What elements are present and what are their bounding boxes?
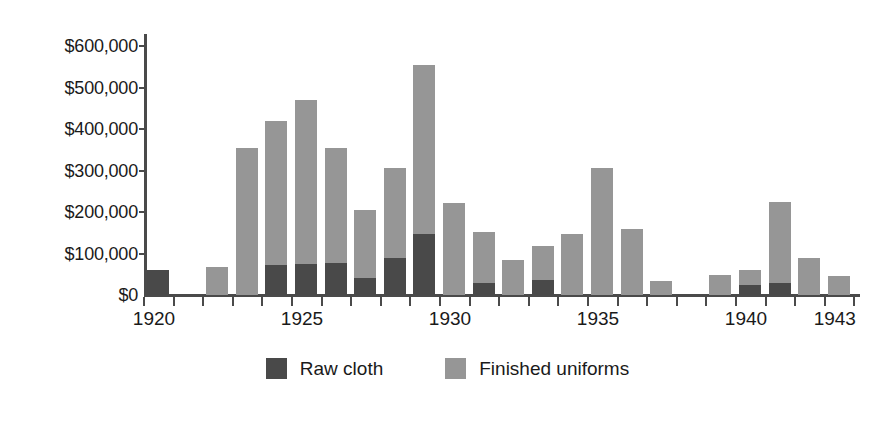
x-axis-tick-mark xyxy=(587,297,589,306)
x-axis-tick-mark xyxy=(321,297,323,306)
x-axis-tick-mark xyxy=(380,297,382,306)
x-axis-tick-mark xyxy=(557,297,559,306)
bar-segment-finished-uniforms xyxy=(295,100,317,264)
y-axis-tick-mark xyxy=(139,211,145,213)
x-axis-tick-mark xyxy=(173,297,175,306)
bar-1925 xyxy=(295,100,317,295)
y-axis-tick-label: $600,000 xyxy=(6,37,138,55)
bar-segment-finished-uniforms xyxy=(236,148,258,295)
bar-segment-finished-uniforms xyxy=(443,203,465,295)
x-axis-tick-mark xyxy=(794,297,796,306)
stacked-bar-chart: $0$100,000$200,000$300,000$400,000$500,0… xyxy=(0,0,895,437)
bar-1935 xyxy=(591,168,613,295)
bar-1941 xyxy=(769,202,791,295)
x-axis-tick-mark xyxy=(676,297,678,306)
bar-1926 xyxy=(325,148,347,295)
x-axis-tick-mark xyxy=(409,297,411,306)
x-axis-tick-label: 1935 xyxy=(577,309,619,328)
bar-1922 xyxy=(206,267,228,295)
legend-label-raw-cloth: Raw cloth xyxy=(300,359,383,378)
x-axis-tick-mark xyxy=(350,297,352,306)
x-axis-tick-mark xyxy=(498,297,500,306)
legend-label-finished-uniforms: Finished uniforms xyxy=(479,359,629,378)
y-axis-tick-mark xyxy=(139,170,145,172)
legend-item-finished-uniforms: Finished uniforms xyxy=(445,358,629,379)
legend-item-raw-cloth: Raw cloth xyxy=(266,358,383,379)
bar-1923 xyxy=(236,148,258,295)
y-axis-tick-mark xyxy=(139,87,145,89)
chart-legend: Raw cloth Finished uniforms xyxy=(0,358,895,379)
x-axis-tick-mark xyxy=(646,297,648,306)
x-axis-tick-mark xyxy=(528,297,530,306)
bar-segment-raw-cloth xyxy=(295,264,317,295)
bar-segment-finished-uniforms xyxy=(206,267,228,295)
bar-segment-finished-uniforms xyxy=(384,168,406,258)
bar-segment-raw-cloth xyxy=(769,283,791,295)
bar-segment-raw-cloth xyxy=(354,278,376,295)
x-axis-tick-mark xyxy=(439,297,441,306)
bar-segment-finished-uniforms xyxy=(502,260,524,295)
bar-segment-raw-cloth xyxy=(739,285,761,295)
y-axis-tick-mark xyxy=(139,128,145,130)
finished-uniforms-swatch-icon xyxy=(445,358,466,379)
y-axis-tick-label: $200,000 xyxy=(6,203,138,221)
y-axis-tick-label: $500,000 xyxy=(6,79,138,97)
x-axis-tick-mark xyxy=(853,297,855,306)
x-axis-tick-mark xyxy=(232,297,234,306)
x-axis-tick-mark xyxy=(617,297,619,306)
x-axis-tick-label: 1940 xyxy=(725,309,767,328)
bar-segment-raw-cloth xyxy=(325,263,347,295)
bar-1943 xyxy=(828,276,850,295)
bar-1931 xyxy=(473,232,495,295)
bar-segment-finished-uniforms xyxy=(769,202,791,284)
x-axis-tick-mark xyxy=(202,297,204,306)
x-axis-tick-mark xyxy=(735,297,737,306)
bar-segment-raw-cloth xyxy=(147,270,169,295)
x-axis-tick-mark xyxy=(469,297,471,306)
x-axis-tick-mark xyxy=(261,297,263,306)
bar-1936 xyxy=(621,229,643,295)
x-axis-tick-mark xyxy=(765,297,767,306)
bar-segment-finished-uniforms xyxy=(650,281,672,295)
bar-1937 xyxy=(650,281,672,295)
bar-segment-finished-uniforms xyxy=(325,148,347,263)
bar-segment-raw-cloth xyxy=(473,283,495,295)
y-axis-tick-mark xyxy=(139,45,145,47)
x-axis-tick-mark xyxy=(291,297,293,306)
bar-1920 xyxy=(147,270,169,295)
bar-segment-finished-uniforms xyxy=(739,270,761,285)
bar-segment-finished-uniforms xyxy=(532,246,554,280)
bar-segment-finished-uniforms xyxy=(413,65,435,234)
y-axis-tick-mark xyxy=(139,253,145,255)
bar-1939 xyxy=(709,275,731,295)
x-axis-tick-label: 1925 xyxy=(281,309,323,328)
y-axis-tick-label: $300,000 xyxy=(6,162,138,180)
x-axis-tick-label: 1930 xyxy=(429,309,471,328)
x-axis-tick-mark xyxy=(824,297,826,306)
y-axis-tick-label: $0 xyxy=(6,286,138,304)
bar-segment-finished-uniforms xyxy=(621,229,643,295)
bar-segment-finished-uniforms xyxy=(265,121,287,265)
bar-segment-finished-uniforms xyxy=(798,258,820,295)
x-axis-tick-mark xyxy=(705,297,707,306)
bar-1942 xyxy=(798,258,820,295)
bar-1929 xyxy=(413,65,435,295)
x-axis-tick-mark xyxy=(143,297,145,306)
bar-segment-raw-cloth xyxy=(384,258,406,295)
bar-1924 xyxy=(265,121,287,295)
bar-segment-finished-uniforms xyxy=(591,168,613,295)
bar-segment-finished-uniforms xyxy=(828,276,850,295)
bar-1928 xyxy=(384,168,406,295)
bar-1930 xyxy=(443,203,465,295)
y-axis-tick-label: $400,000 xyxy=(6,120,138,138)
bar-segment-raw-cloth xyxy=(413,234,435,295)
bar-1927 xyxy=(354,210,376,295)
bar-segment-raw-cloth xyxy=(265,265,287,295)
raw-cloth-swatch-icon xyxy=(266,358,287,379)
bar-segment-finished-uniforms xyxy=(709,275,731,295)
bar-1933 xyxy=(532,246,554,295)
bar-1934 xyxy=(561,234,583,295)
x-axis-tick-label: 1920 xyxy=(133,309,175,328)
bar-segment-finished-uniforms xyxy=(561,234,583,295)
y-axis-tick-label: $100,000 xyxy=(6,245,138,263)
